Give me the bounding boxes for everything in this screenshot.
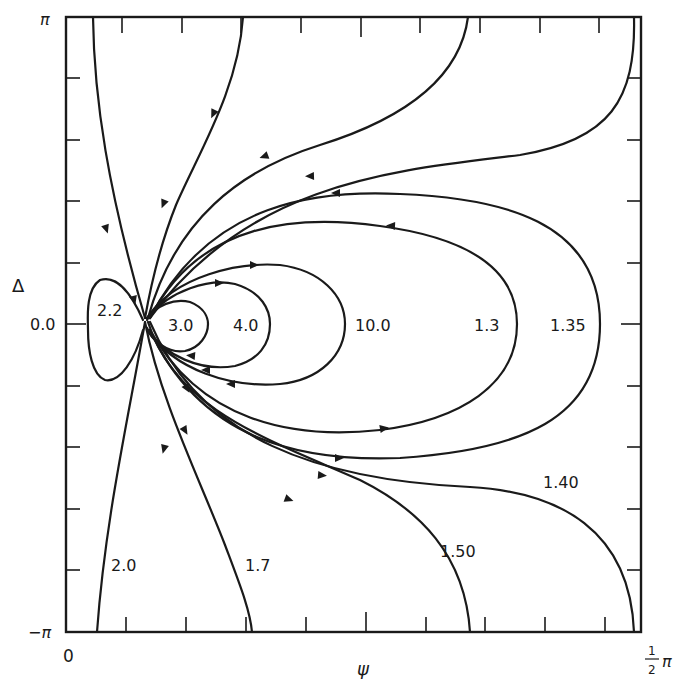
y-bottom-label: −π — [28, 623, 51, 642]
contour-label-2-2: 2.2 — [97, 301, 122, 320]
contour-label-10-0: 10.0 — [355, 316, 391, 335]
y-mid-label: 0.0 — [30, 315, 55, 334]
x-right-label: 1 2 π — [645, 644, 672, 677]
svg-text:1: 1 — [648, 644, 656, 658]
y-ticks-right — [621, 78, 641, 570]
contour-label-1-7: 1.7 — [245, 556, 270, 575]
y-top-label: π — [40, 10, 50, 29]
x-ticks-top — [122, 17, 599, 37]
svg-text:2: 2 — [648, 663, 656, 677]
contour-2-0-lower — [97, 322, 145, 632]
y-ticks-left — [66, 78, 86, 570]
contour-1-7-lower — [145, 322, 252, 632]
y-axis-title: Δ — [12, 275, 25, 296]
contour-1-40-upper — [150, 17, 634, 318]
contour-label-1-3: 1.3 — [474, 316, 499, 335]
contour-label-3-0: 3.0 — [168, 316, 193, 335]
contour-label-1-35: 1.35 — [550, 316, 586, 335]
x-left-label: 0 — [63, 646, 74, 666]
direction-arrows — [101, 108, 395, 505]
contour-2-0-upper — [93, 17, 145, 318]
phase-plane-chart: π Δ 0.0 −π 0 ψ 1 2 π 2.2 3.0 4.0 10.0 1.… — [0, 0, 684, 690]
x-ticks-bottom — [126, 612, 605, 632]
svg-text:π: π — [662, 652, 672, 671]
x-axis-title: ψ — [357, 658, 370, 679]
contour-label-2-0: 2.0 — [111, 556, 136, 575]
contour-label-1-40: 1.40 — [543, 473, 579, 492]
contour-label-4-0: 4.0 — [233, 316, 258, 335]
contour-label-1-50: 1.50 — [440, 542, 476, 561]
contour-1-7-upper — [145, 17, 243, 318]
contour-2-2-loop — [88, 279, 143, 380]
